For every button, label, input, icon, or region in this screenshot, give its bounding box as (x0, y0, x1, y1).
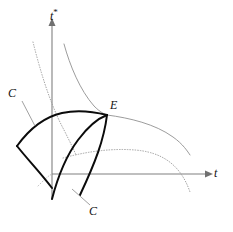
bold-curves-group (17, 111, 107, 199)
thin-curves-group (64, 44, 190, 155)
axis-label-t-star: t* (50, 8, 58, 22)
curve-label-C-lower: C (89, 205, 97, 217)
figure-canvas: t* t E C C (0, 0, 233, 232)
dotted-iso-curve-lower-right (63, 149, 190, 192)
bold-segment-lower-left (17, 146, 52, 188)
leader-line-C-upper-left (22, 101, 35, 126)
bold-reaction-curve-home (17, 111, 107, 146)
bold-reaction-curve-foreign (52, 115, 107, 199)
axis-label-t: t (214, 167, 217, 179)
point-label-E: E (110, 99, 117, 111)
thin-iso-curve-upper (64, 44, 107, 115)
bold-segment-lower-right (80, 115, 107, 195)
axes-group (49, 18, 214, 200)
dotted-iso-curve-upper-left (33, 42, 76, 155)
axis-label-t-star-superscript: * (53, 7, 58, 17)
dotted-curves-group (33, 42, 190, 192)
figure-drawing (0, 0, 233, 232)
t-axis-arrowhead (205, 171, 213, 178)
thin-iso-curve-right (107, 115, 190, 155)
leader-lines-group (22, 101, 90, 205)
curve-label-C-upper-left: C (8, 87, 16, 99)
